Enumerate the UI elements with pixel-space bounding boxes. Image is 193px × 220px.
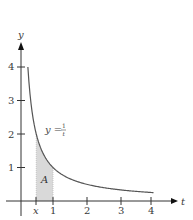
y-tick-label-2: 2 xyxy=(8,129,14,140)
area-label: A xyxy=(40,174,48,185)
y-tick-label-4: 4 xyxy=(8,61,14,72)
curve-label-lhs: y = xyxy=(44,124,62,135)
curve-label-numerator: 1 xyxy=(62,122,66,129)
x-tick-label-x: x xyxy=(33,205,39,216)
x-tick-label-1: 1 xyxy=(50,205,56,216)
y-axis-label: y xyxy=(17,29,24,40)
x-axis-arrow-icon xyxy=(171,198,178,204)
x-tick-label-4: 4 xyxy=(148,205,154,216)
x-tick-label-2: 2 xyxy=(84,205,90,216)
x-tick-label-3: 3 xyxy=(118,205,124,216)
x-axis-label: t xyxy=(181,196,186,207)
curve-label: y = 1 t xyxy=(44,122,66,137)
y-tick-label-3: 3 xyxy=(8,95,14,106)
curve-label-denominator: t xyxy=(63,130,66,137)
y-tick-label-1: 1 xyxy=(8,162,14,173)
y-axis-arrow-icon xyxy=(18,42,24,50)
chart: t y 1 2 3 4 x 1 2 3 4 y = 1 t A xyxy=(0,0,193,220)
y-ticks: 1 2 3 4 xyxy=(8,61,25,173)
